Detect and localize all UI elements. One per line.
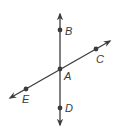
label-e: E — [22, 93, 30, 105]
label-d: D — [65, 102, 73, 114]
label-a: A — [63, 70, 71, 82]
label-c: C — [96, 53, 104, 65]
point-e — [24, 87, 29, 92]
point-b — [58, 28, 63, 33]
geometry-diagram: B A D C E — [0, 0, 118, 134]
point-a — [58, 67, 63, 72]
label-b: B — [65, 25, 72, 37]
point-c — [94, 47, 99, 52]
point-d — [58, 106, 63, 111]
